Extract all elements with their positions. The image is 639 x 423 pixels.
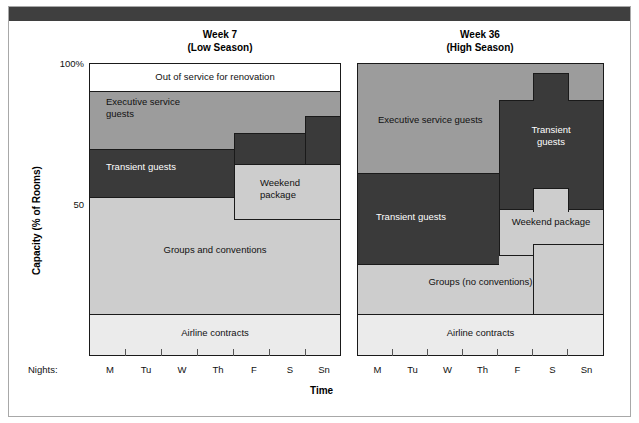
segment-groups-week36-left [358,265,499,314]
chart-week7-plot: Out of service for renovation Executive … [89,63,341,356]
segment-weekend-package-week7-label: Weekend package [260,177,300,201]
x-tick-4-week36 [497,349,498,356]
x-label-week7-F: F [236,364,272,375]
panel-title-week7-line2: (Low Season) [125,41,315,54]
segment-executive-week7-label: Executive service guests [106,96,180,120]
nights-label: Nights: [28,364,58,375]
segment-transient-week36-saturday-peak [533,73,569,101]
segment-transient-week36-weekday-label: Transient guests [376,211,446,223]
segment-out-of-service-label: Out of service for renovation [90,71,340,83]
x-tick-4-week7 [233,349,234,356]
x-tick-2-week7 [161,349,162,356]
x-label-week36-W: W [430,364,465,375]
panel-title-week36-line2: (High Season) [385,41,575,54]
x-label-week7-Th: Th [200,364,236,375]
chart-week36-plot: Executive service guests Transient guest… [357,63,604,356]
panel-title-week7-line1: Week 7 [125,28,315,41]
x-tick-3-week7 [197,349,198,356]
segment-transient-week7-weekday [90,149,234,197]
segment-airline-week36-label: Airline contracts [358,327,603,339]
panel-title-week36: Week 36 (High Season) [385,28,575,54]
x-label-week36-M: M [360,364,395,375]
segment-groups-week7-right [234,220,341,314]
x-label-week7-M: M [92,364,128,375]
x-tick-5-week36 [532,349,533,356]
segment-groups-week7-label: Groups and conventions [90,244,340,256]
x-label-week36-Tu: Tu [395,364,430,375]
panel-title-week36-line1: Week 36 [385,28,575,41]
x-tick-2-week36 [427,349,428,356]
segment-weekend-package-week36-saturday-peak [533,188,569,212]
y-tick-50: 50 [40,199,84,210]
x-tick-5-week7 [269,349,270,356]
y-tick-100: 100% [40,58,84,69]
x-label-week7-W: W [164,364,200,375]
panel-title-week7: Week 7 (Low Season) [125,28,315,54]
segment-transient-week7-label: Transient guests [106,161,176,173]
x-label-week36-Th: Th [465,364,500,375]
x-tick-3-week36 [462,349,463,356]
segment-airline-week7-label: Airline contracts [90,327,340,339]
x-label-week36-Sn: Sn [569,364,604,375]
x-tick-6-week7 [305,349,306,356]
segment-groups-week36-label: Groups (no conventions) [358,276,603,288]
x-label-week7-Tu: Tu [128,364,164,375]
figure-root: Capacity (% of Rooms) 100% 50 Week 7 (Lo… [0,0,639,423]
x-label-week7-S: S [272,364,308,375]
x-label-week36-F: F [500,364,535,375]
header-band [8,6,631,21]
x-tick-6-week36 [567,349,568,356]
x-label-week7-Sn: Sn [306,364,342,375]
segment-transient-week36-weekend-label: Transient guests [510,124,592,148]
segment-weekend-package-week36-label: Weekend package [499,216,603,228]
x-label-week36-S: S [535,364,570,375]
y-axis-label: Capacity (% of Rooms) [31,166,42,275]
x-tick-1-week36 [392,349,393,356]
x-tick-1-week7 [125,349,126,356]
segment-executive-week36-label: Executive service guests [378,114,483,126]
x-axis-label: Time [310,385,333,396]
